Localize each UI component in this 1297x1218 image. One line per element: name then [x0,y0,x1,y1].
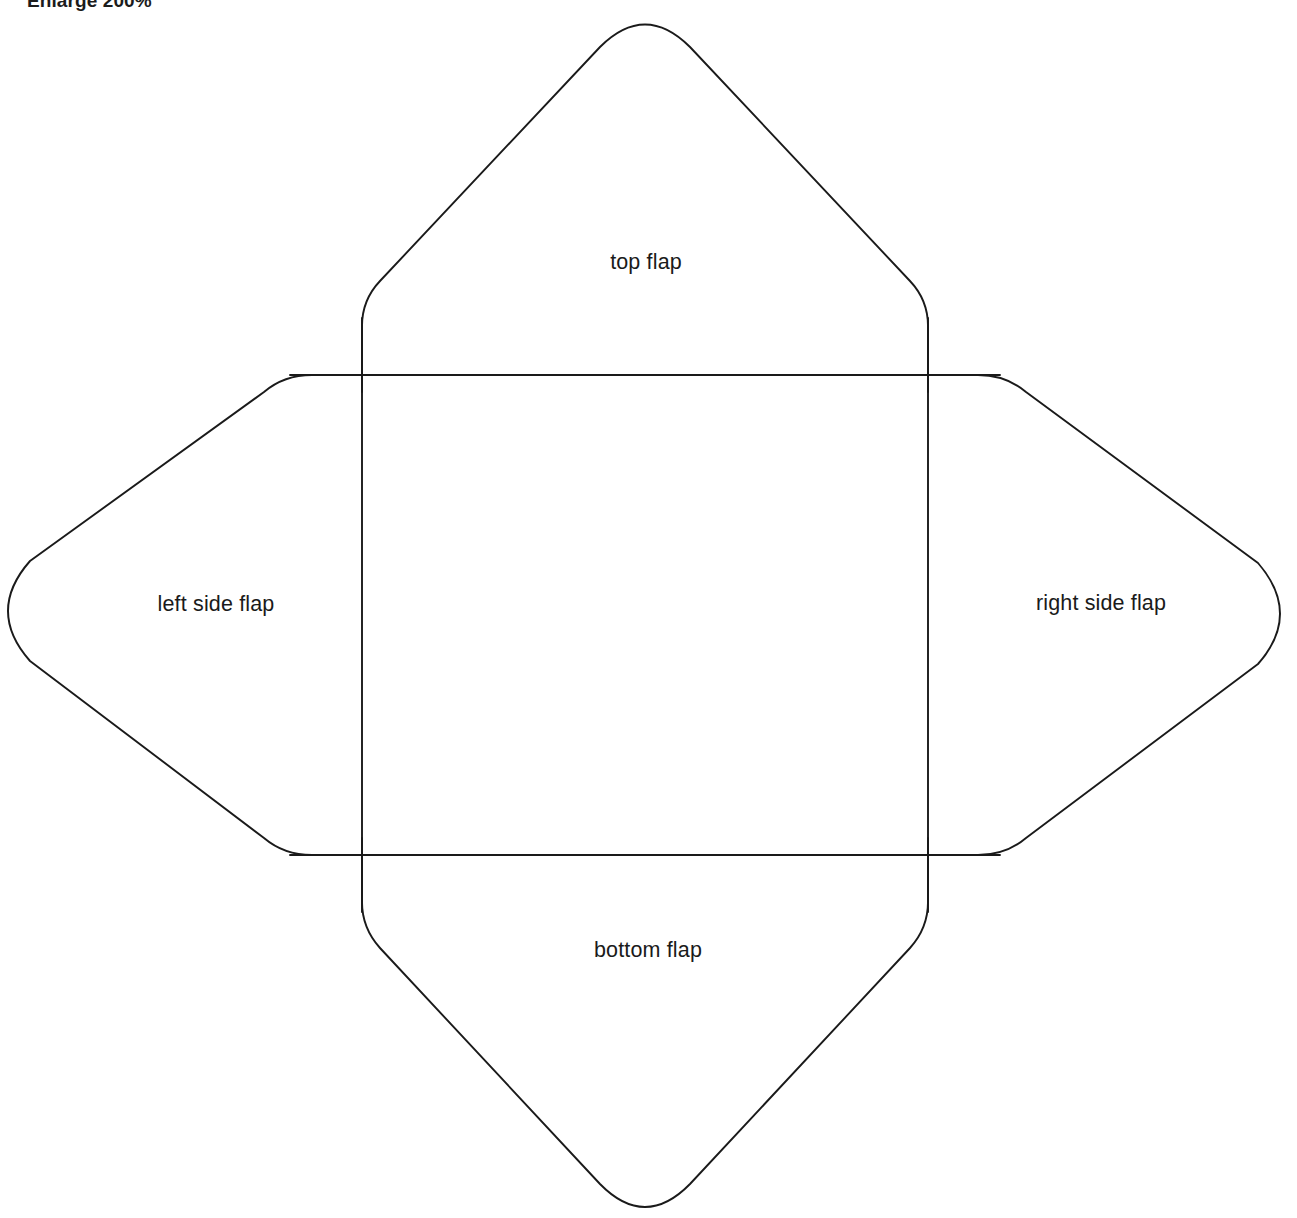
right-side-flap-label: right side flap [1036,593,1166,615]
bottom-flap-outline [362,838,928,1207]
left-side-flap-label: left side flap [158,594,275,616]
top-flap-label: top flap [610,252,682,274]
top-flap-outline [362,25,928,393]
bottom-flap-label: bottom flap [594,940,702,962]
envelope-template-page: Enlarge 200% top flap left side flap rig… [0,0,1297,1218]
